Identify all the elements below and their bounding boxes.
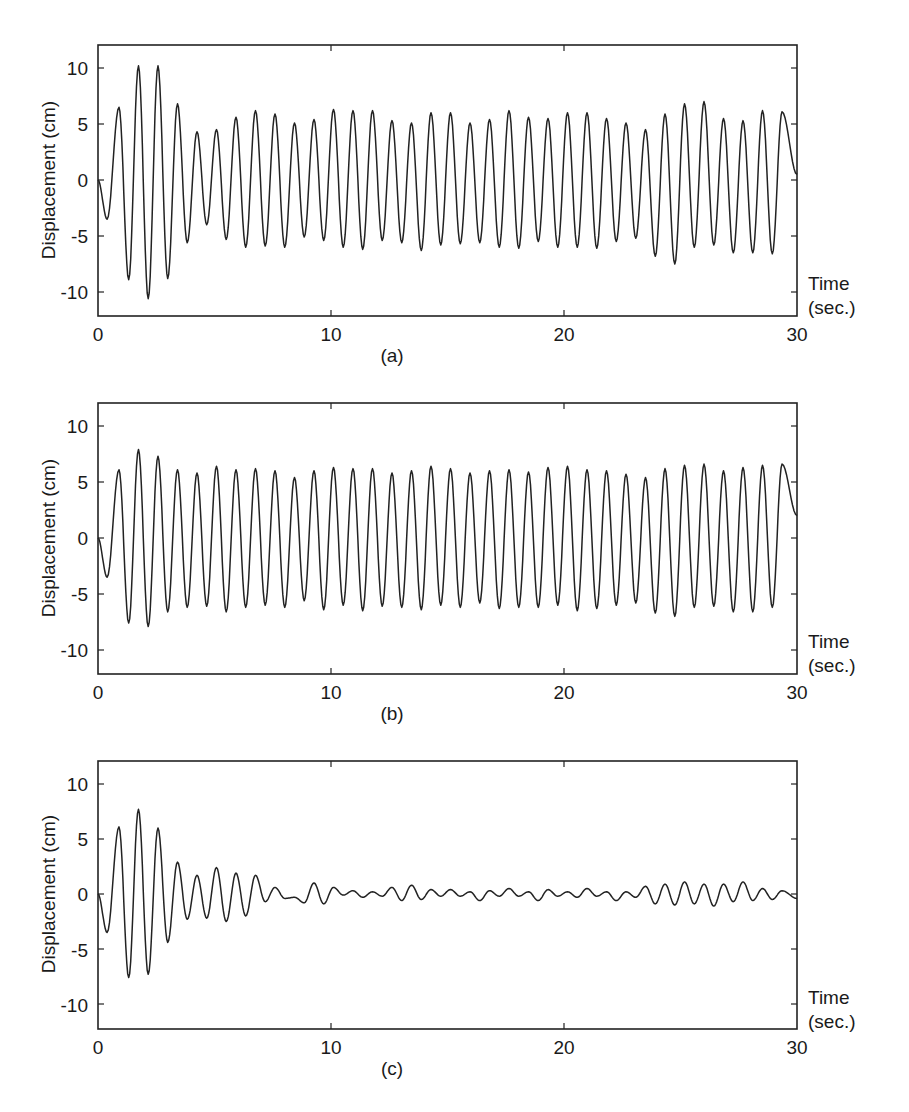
- x-axis-label-line2: (sec.): [808, 297, 856, 318]
- x-axis-label-line1: Time: [808, 273, 850, 294]
- y-tick-label: -5: [71, 940, 88, 961]
- panel-caption: (c): [381, 1058, 403, 1079]
- y-tick-label: -10: [61, 282, 88, 303]
- panel-a: Displacement (cm) 10 5 0 -5 -10 0 10 20 …: [38, 45, 856, 366]
- panel-c: Displacement (cm) 10 5 0 -5 -10 0 10 20 …: [38, 761, 856, 1079]
- x-axis-label-line1: Time: [808, 631, 850, 652]
- x-axis-label-line1: Time: [808, 987, 850, 1008]
- y-tick-label: 0: [77, 528, 88, 549]
- x-tick-label: 10: [320, 1037, 341, 1058]
- x-tick-label: 10: [320, 682, 341, 703]
- plot-frame: [98, 403, 797, 674]
- y-axis-label: Displacement (cm): [38, 815, 59, 973]
- x-tick-label: 30: [786, 324, 807, 345]
- plot-frame: [98, 45, 797, 316]
- x-tick-label: 10: [320, 324, 341, 345]
- panel-caption: (b): [380, 703, 403, 724]
- displacement-curve: [98, 450, 797, 627]
- x-tick-label: 20: [553, 682, 574, 703]
- x-tick-label: 0: [93, 682, 104, 703]
- displacement-curve: [98, 809, 797, 977]
- x-tick-label: 0: [93, 1037, 104, 1058]
- plot-frame: [98, 761, 797, 1029]
- y-tick-label: 0: [77, 170, 88, 191]
- y-tick-label: -10: [61, 640, 88, 661]
- y-axis-label: Displacement (cm): [38, 459, 59, 617]
- x-tick-label: 20: [553, 1037, 574, 1058]
- y-tick-label: 5: [77, 472, 88, 493]
- y-tick-label: 5: [77, 829, 88, 850]
- y-tick-label: -5: [71, 226, 88, 247]
- x-tick-label: 30: [786, 682, 807, 703]
- y-tick-label: 5: [77, 114, 88, 135]
- y-tick-label: 10: [67, 774, 88, 795]
- axis-ticks: [98, 45, 797, 316]
- axis-ticks: [98, 761, 797, 1029]
- y-tick-label: -5: [71, 584, 88, 605]
- x-axis-label-line2: (sec.): [808, 655, 856, 676]
- figure: Displacement (cm) 10 5 0 -5 -10 0 10 20 …: [0, 0, 909, 1112]
- y-tick-label: -10: [61, 995, 88, 1016]
- x-axis-label-line2: (sec.): [808, 1011, 856, 1032]
- displacement-curve: [98, 66, 797, 299]
- panel-caption: (a): [380, 345, 403, 366]
- y-tick-label: 0: [77, 884, 88, 905]
- y-tick-label: 10: [67, 58, 88, 79]
- y-tick-label: 10: [67, 416, 88, 437]
- x-tick-label: 0: [93, 324, 104, 345]
- panel-b: Displacement (cm) 10 5 0 -5 -10 0 10 20 …: [38, 403, 856, 724]
- x-tick-label: 20: [553, 324, 574, 345]
- axis-ticks: [98, 403, 797, 674]
- x-tick-label: 30: [786, 1037, 807, 1058]
- y-axis-label: Displacement (cm): [38, 101, 59, 259]
